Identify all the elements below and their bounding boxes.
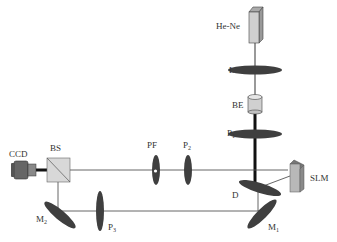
label-l: L <box>229 65 235 75</box>
polarizer-p2 <box>184 155 192 185</box>
label-he-ne: He-Ne <box>216 21 240 31</box>
label-ccd: CCD <box>9 149 28 159</box>
polarizer-p1 <box>228 130 282 139</box>
beam-splitter <box>47 158 70 182</box>
polarizer-p3 <box>96 191 104 231</box>
optical-setup-diagram: He-Ne L BE P1 SLM D M1 PF P2 P3 M2 BS <box>0 0 337 242</box>
lens-l <box>228 66 282 75</box>
label-be: BE <box>232 100 244 110</box>
label-p1: P1 <box>227 128 235 139</box>
he-ne-laser <box>249 7 263 43</box>
label-p2: P2 <box>183 140 191 151</box>
spatial-light-modulator <box>290 160 304 192</box>
label-slm: SLM <box>310 173 329 183</box>
pinhole-aperture <box>154 169 157 172</box>
label-pf: PF <box>147 140 157 150</box>
label-m2: M2 <box>36 214 47 225</box>
ccd-camera <box>11 161 36 179</box>
beam-expander <box>248 95 262 115</box>
label-bs: BS <box>50 143 61 153</box>
label-p3: P3 <box>108 222 116 233</box>
diffuser-d <box>237 177 282 199</box>
label-d: D <box>232 190 239 200</box>
label-m1: M1 <box>268 222 279 233</box>
mirror-m2 <box>41 198 78 231</box>
